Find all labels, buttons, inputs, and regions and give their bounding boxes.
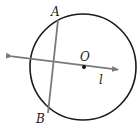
label-a: A [50,5,60,19]
label-b: B [35,112,45,126]
center-point-o [82,65,86,69]
chord-ab [48,20,58,113]
geometry-diagram: A B O l [0,0,140,127]
label-o: O [80,50,90,64]
line-l [12,56,118,69]
label-l: l [99,73,103,87]
